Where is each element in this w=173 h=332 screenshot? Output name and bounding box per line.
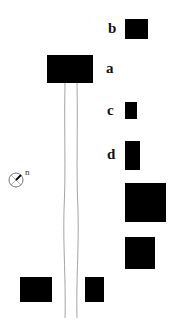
compass-north-label: n [25,167,30,177]
north-compass-icon [0,0,173,332]
